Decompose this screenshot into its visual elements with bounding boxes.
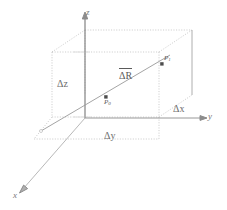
delta-x-label: Δx xyxy=(173,104,184,114)
z-axis-label: z xyxy=(86,8,90,17)
y-axis-label: y xyxy=(208,112,212,121)
point-p1-marker xyxy=(160,62,163,65)
vector-origin-crossing-marker xyxy=(40,130,43,133)
x-axis-arrowhead xyxy=(20,185,28,193)
displacement-vector-group xyxy=(40,55,171,133)
vector-overbar xyxy=(119,68,132,69)
x-axis-label: x xyxy=(13,191,17,200)
x-axis-line xyxy=(23,118,85,189)
point-p1-label: P1 xyxy=(164,55,171,62)
box-edge-top-right xyxy=(159,30,192,52)
delta-y-label: Δy xyxy=(104,131,115,141)
point-p0-subscript: 0 xyxy=(108,101,111,106)
diagram-canvas: z y x Δz Δy Δx P0 P1 ΔR xyxy=(0,0,227,210)
displacement-vector-line xyxy=(41,55,170,131)
delta-z-label: Δz xyxy=(57,79,68,89)
vector-label-text: ΔR xyxy=(119,70,132,81)
point-p1-subscript: 1 xyxy=(168,57,171,62)
point-p0-label: P0 xyxy=(104,99,111,106)
diagram-vector-graphics xyxy=(0,0,227,210)
displacement-vector-label: ΔR xyxy=(119,68,132,81)
box-edge-bottom-left-diag xyxy=(34,117,52,139)
y-axis-arrowhead xyxy=(200,116,207,121)
box-edge-top-back-left xyxy=(52,30,85,52)
delta-z-guides xyxy=(74,52,92,117)
